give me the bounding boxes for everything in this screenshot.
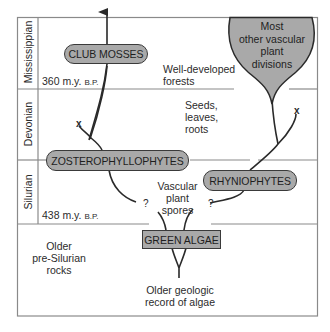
time-marker-360: 360 m.y. B.P. [42, 75, 99, 89]
extinct-marker-zosterophyll: x [76, 118, 82, 129]
annotation-seeds-line-1: Seeds, [185, 99, 218, 111]
node-other-divisions-label: Most other vascular plant divisions [232, 20, 312, 70]
time-marker-438-value: 438 m.y. [42, 209, 82, 221]
annotation-spores-line-2: plant [150, 192, 205, 204]
time-marker-438: 438 m.y. B.P. [42, 209, 99, 223]
other-divisions-line-1: Most [232, 20, 312, 33]
annotation-pre-silurian-rocks: Older pre-Silurian rocks [22, 240, 96, 276]
zosterophyll-extinct-branch [79, 126, 102, 150]
node-zosterophyllophytes: ZOSTEROPHYLLOPHYTES [46, 150, 189, 171]
rhyniophyte-upper-lineage [250, 114, 296, 170]
other-divisions-stem [272, 100, 278, 144]
zosterophyll-to-algae [109, 170, 136, 202]
node-rhyniophytes: RHYNIOPHYTES [203, 170, 297, 191]
time-marker-360-value: 360 m.y. [42, 75, 82, 87]
other-divisions-line-4: divisions [232, 58, 312, 71]
annotation-forests: Well-developed forests [163, 63, 235, 87]
annotation-spores-line-3: spores [150, 204, 205, 216]
annotation-forests-line-1: Well-developed [163, 63, 235, 75]
other-divisions-line-3: plant [232, 45, 312, 58]
annotation-pre-silurian-line-3: rocks [22, 264, 96, 276]
period-label-devonian: Devonian [22, 88, 34, 160]
period-label-silurian: Silurian [22, 156, 34, 228]
extinct-marker-rhyniophyte: x [294, 105, 300, 116]
annotation-algae-record: Older geologic record of algae [138, 284, 222, 308]
time-marker-360-unit: B.P. [84, 78, 98, 87]
annotation-pre-silurian-line-1: Older [22, 240, 96, 252]
node-green-algae: GREEN ALGAE [142, 230, 221, 249]
annotation-seeds-leaves-roots: Seeds, leaves, roots [185, 99, 218, 135]
annotation-seeds-line-3: roots [185, 123, 218, 135]
uncertain-marker-left: ? [143, 198, 149, 209]
other-divisions-line-2: other vascular [232, 33, 312, 46]
time-marker-438-unit: B.P. [84, 212, 98, 221]
annotation-pre-silurian-line-2: pre-Silurian [22, 252, 96, 264]
annotation-algae-record-line-2: record of algae [138, 296, 222, 308]
annotation-algae-record-line-1: Older geologic [138, 284, 222, 296]
rhyniophyte-to-algae [210, 190, 244, 203]
uncertain-marker-right: ? [208, 198, 214, 209]
annotation-vascular-spores: Vascular plant spores [150, 180, 205, 216]
annotation-spores-line-1: Vascular [150, 180, 205, 192]
node-club-mosses: CLUB MOSSES [64, 44, 148, 64]
algae-record-fork [172, 248, 186, 278]
annotation-seeds-line-2: leaves, [185, 111, 218, 123]
annotation-forests-line-2: forests [163, 75, 235, 87]
period-label-mississippian: Mississippian [22, 16, 34, 88]
